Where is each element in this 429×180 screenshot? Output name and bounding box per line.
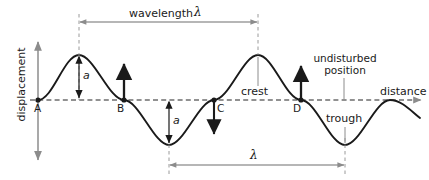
amplitude-upper-label: a <box>83 70 90 82</box>
point-label-c: C <box>217 103 224 115</box>
undisturbed-position-line2: position <box>309 65 381 77</box>
point-label-d: D <box>293 103 301 115</box>
wave-diagram-canvas <box>0 0 429 180</box>
point-label-b: B <box>117 103 124 115</box>
wavelength-top-label: wavelength <box>129 8 193 20</box>
point-dot-c <box>211 97 216 102</box>
undisturbed-position-line1: undisturbed <box>309 53 381 65</box>
point-label-a: A <box>34 103 41 115</box>
lambda-symbol-top: λ <box>194 6 202 19</box>
wavelength-bottom-label: λ <box>250 149 258 162</box>
trough-label: trough <box>326 113 362 125</box>
x-axis-label: distance <box>380 86 427 98</box>
crest-label: crest <box>241 86 268 98</box>
amplitude-lower-label: a <box>173 115 180 127</box>
wave-diagram: displacement distance wavelength λ λ a a… <box>0 0 429 180</box>
y-axis-label: displacement <box>15 38 28 132</box>
